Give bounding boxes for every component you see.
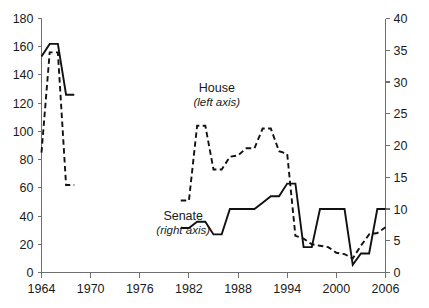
series-line-senate: [181, 184, 386, 265]
left-axis-tick-label: 180: [13, 12, 34, 26]
house-label-subtitle: (left axis): [193, 96, 240, 108]
series-line-house: [181, 126, 386, 259]
senate-label-subtitle: (right axis): [156, 224, 210, 236]
left-axis: 020406080100120140160180: [13, 12, 42, 280]
right-axis-tick-label: 40: [394, 12, 408, 26]
left-axis-tick-label: 40: [20, 210, 34, 224]
left-axis-tick-label: 120: [13, 97, 34, 111]
series-lines: [42, 44, 386, 265]
left-axis-tick-label: 140: [13, 68, 34, 82]
right-axis-tick-label: 0: [394, 266, 401, 280]
x-axis-tick-label: 1988: [224, 282, 252, 296]
x-axis-tick-label: 2006: [372, 282, 400, 296]
right-axis-tick-label: 20: [394, 139, 408, 153]
left-axis-tick-label: 100: [13, 125, 34, 139]
x-axis-tick-label: 2000: [322, 282, 350, 296]
right-axis: 0510152025303540: [386, 12, 408, 280]
x-axis-tick-label: 1970: [77, 282, 105, 296]
house-label-title: House: [199, 81, 235, 95]
left-axis-tick-label: 20: [20, 238, 34, 252]
x-axis-tick-label: 1994: [273, 282, 301, 296]
right-axis-tick-label: 35: [394, 44, 408, 58]
left-axis-tick-label: 60: [20, 181, 34, 195]
senate-label-title: Senate: [163, 209, 203, 223]
right-axis-tick-label: 5: [394, 234, 401, 248]
x-axis-tick-label: 1976: [126, 282, 154, 296]
right-axis-tick-label: 15: [394, 171, 408, 185]
series-line-house: [42, 52, 75, 185]
left-axis-tick-label: 160: [13, 40, 34, 54]
line-chart: 020406080100120140160180 051015202530354…: [0, 0, 429, 308]
chart-container: 020406080100120140160180 051015202530354…: [0, 0, 429, 308]
right-axis-tick-label: 30: [394, 76, 408, 90]
x-axis: 19641970197619821988199420002006: [28, 273, 400, 296]
x-axis-tick-label: 1964: [28, 282, 56, 296]
left-axis-tick-label: 0: [27, 266, 34, 280]
right-axis-tick-label: 10: [394, 203, 408, 217]
x-axis-tick-label: 1982: [175, 282, 203, 296]
right-axis-tick-label: 25: [394, 107, 408, 121]
left-axis-tick-label: 80: [20, 153, 34, 167]
